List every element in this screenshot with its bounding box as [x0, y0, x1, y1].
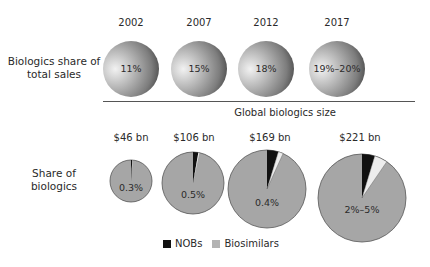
pie-46bn — [110, 160, 152, 202]
pie-169bn — [228, 150, 306, 228]
biosimilars-swatch — [212, 240, 220, 248]
nobs-swatch — [163, 240, 171, 248]
legend: NOBs Biosimilars — [163, 238, 279, 249]
pie-106bn — [162, 152, 224, 214]
biosimilar-share-2002: 0.3% — [111, 182, 151, 193]
biosimilar-share-2017: 2%–5% — [336, 204, 388, 215]
biosimilar-share-2012: 0.4% — [247, 197, 287, 208]
legend-biosimilars: Biosimilars — [224, 238, 279, 249]
legend-nobs: NOBs — [175, 238, 202, 249]
pie-221bn — [318, 154, 406, 242]
pies — [0, 0, 430, 267]
biosimilar-share-2007: 0.5% — [173, 189, 213, 200]
